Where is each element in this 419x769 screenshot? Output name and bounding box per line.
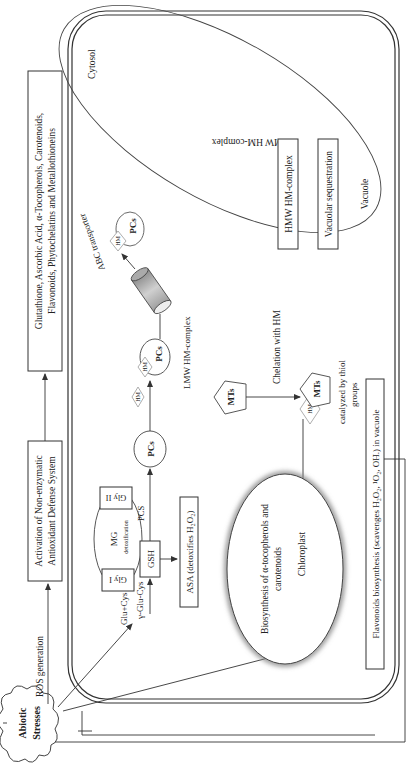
hm-label: HM: [135, 392, 141, 402]
vacuolar-sequestration-label: Vacuolar sequestration: [324, 151, 334, 238]
pcs-enzyme-label: PCS: [136, 506, 146, 521]
activation-line1: Activation of Non-enzymatic: [34, 455, 44, 566]
mts-label: MTs: [226, 388, 236, 406]
glu-cys-label: Glu+Cys: [119, 592, 129, 625]
pcs-label: PCs: [154, 346, 164, 362]
mts-label: MTs: [312, 380, 322, 398]
stresses-label: Stresses: [31, 706, 42, 740]
antioxidants-line1: Glutathione, Ascorbic Acid, α-Tocopherol…: [34, 113, 44, 329]
catalyzed-label-1: catalyzed by thiol: [337, 360, 347, 424]
abc-transporter-icon: [129, 265, 173, 316]
lmw-complex-cytosol-label: LMW HM-complex: [182, 316, 192, 389]
chloroplast-label: Chloroplast: [297, 531, 307, 576]
gly1-label: Gly I: [109, 575, 127, 585]
diagram-stage: Abiotic Stresses ROS generation Activati…: [0, 0, 419, 769]
abiotic-label: Abiotic: [17, 707, 28, 739]
activation-box: Activation of Non-enzymatic Antioxidant …: [28, 441, 62, 581]
flavonoids-label: Flavonoids biosynthesis (scavenges H₂O₂,…: [371, 409, 381, 638]
chloroplast: [227, 474, 343, 664]
vacuole-lmw-label: LMW HM-complex: [211, 137, 288, 147]
hm-diamond-1: HM: [132, 387, 144, 407]
vacuole-pcs-hm-complex: HM PCs: [110, 212, 144, 251]
pcs-label: PCs: [128, 218, 138, 234]
chloroplast-line1: Biosynthesis of α-tocopherols and: [260, 504, 270, 634]
hm-label: HM: [142, 362, 148, 372]
mg-detox-sublabel: detoxification: [123, 520, 129, 553]
gsh-label: GSH: [146, 550, 156, 569]
activation-line2: Antioxidant Defense System: [47, 456, 57, 566]
gly2-label: Gly II: [106, 493, 127, 503]
asa-label: ASA (detoxifies H₂O₂): [185, 511, 195, 594]
abc-transporter-label: ABC transporter: [77, 212, 107, 272]
stress-bottom-line: [82, 711, 375, 735]
mg-label: MG: [109, 531, 119, 546]
catalyzed-label-2: groups: [349, 382, 359, 407]
vacuole-label: Vacuole: [360, 179, 370, 210]
cytosol-label: Cytosol: [87, 49, 97, 79]
stress-to-glucys-arrow: [58, 624, 132, 707]
antioxidants-line2: Flavonoids, Phytochelatins and Metalloth…: [47, 128, 57, 314]
gamma-glu-cys-label: γ-Glu-Cys: [135, 581, 145, 620]
chelation-label: Chelation with HM: [272, 310, 282, 384]
mts-hm-complex: HM MTs: [300, 373, 330, 424]
chloroplast-line2: carotenoids: [273, 547, 283, 591]
antioxidants-box: Glutathione, Ascorbic Acid, α-Tocopherol…: [28, 71, 62, 371]
hmw-label: HMW HM-complex: [284, 155, 294, 233]
hm-label: HM: [115, 236, 121, 246]
ros-generation-label: ROS generation: [35, 636, 45, 697]
abiotic-stress-diagram: Abiotic Stresses ROS generation Activati…: [0, 0, 419, 769]
abiotic-stresses-cloud: Abiotic Stresses: [0, 686, 59, 762]
abc-to-vacuole-arrow: [122, 254, 135, 269]
pcs-label: PCs: [146, 441, 156, 457]
lmw-pcs-hm-complex: HM PCs: [138, 339, 170, 377]
